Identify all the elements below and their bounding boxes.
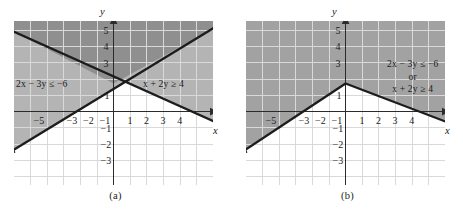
y-tick-label: −1 [333,124,344,134]
y-tick-label: 5 [336,26,341,36]
x-tick-label: 4 [177,116,182,126]
x-tick-label: −3 [299,116,310,126]
x-axis-arrow-b [442,108,450,116]
y-tick-label: −2 [101,140,112,150]
x-axis-name-b: x [445,125,450,136]
x-axis-name-a: x [213,125,218,136]
x-tick-label: 2 [376,116,381,126]
y-tick-label: 5 [104,26,109,36]
panel-caption-b: (b) [232,190,463,201]
inequality-label-second: x + 2y ≥ 4 [387,83,438,96]
graph-a [14,21,213,185]
figure-systems-of-inequalities: −5 −3 −2 −1 1 2 3 4 5 4 3 1 −1 −2 −3 x y… [0,0,463,216]
y-tick-label: −3 [101,156,112,166]
x-tick-label: 4 [409,116,414,126]
y-tick-label: −2 [333,140,344,150]
x-tick-label: −2 [83,116,94,126]
x-tick-label: 3 [393,116,398,126]
y-tick-label: 1 [105,91,110,101]
x-tick-label: −5 [266,116,277,126]
y-tick-label: −1 [101,124,112,134]
y-tick-label: 4 [336,42,341,52]
x-tick-label: −2 [315,116,326,126]
x-tick-label: −5 [34,116,45,126]
y-axis-name-b: y [332,6,337,17]
boundary-arrow-2x-3y-b [237,146,248,155]
y-tick-label: 4 [104,42,109,52]
plot-area-a: −5 −3 −2 −1 1 2 3 4 5 4 3 1 −1 −2 −3 [14,21,213,185]
panel-b: −5 −3 −2 −1 1 2 3 4 5 4 3 1 −1 −2 −3 x y… [232,0,463,216]
x-tick-label: 3 [161,116,166,126]
x-tick-label: 1 [128,116,133,126]
panel-a: −5 −3 −2 −1 1 2 3 4 5 4 3 1 −1 −2 −3 x y… [0,0,231,216]
y-tick-label: 3 [104,59,109,69]
x-tick-label: −3 [67,116,78,126]
y-axis-arrow-b [342,16,350,24]
boundary-arrow-2x-3y-a [5,146,16,155]
y-axis-arrow-a [110,16,118,24]
y-tick-label: −3 [333,156,344,166]
inequality-label-first: 2x − 3y ≤ −6 [387,58,438,71]
inequality-label-right: x + 2y ≥ 4 [143,78,184,89]
panel-caption-a: (a) [0,190,231,201]
x-tick-label: 1 [360,116,365,126]
x-tick-label: 2 [144,116,149,126]
plot-area-b: −5 −3 −2 −1 1 2 3 4 5 4 3 1 −1 −2 −3 [246,21,445,185]
graph-b [246,21,445,185]
inequality-label-left: 2x − 3y ≤ −6 [16,78,67,89]
y-tick-label: 1 [337,91,342,101]
y-axis-name-a: y [100,6,105,17]
y-tick-label: 3 [336,59,341,69]
inequality-label-connector: or [387,71,438,84]
inequality-label-group-b: 2x − 3y ≤ −6 or x + 2y ≥ 4 [387,58,438,96]
x-axis-arrow-a [210,108,218,116]
